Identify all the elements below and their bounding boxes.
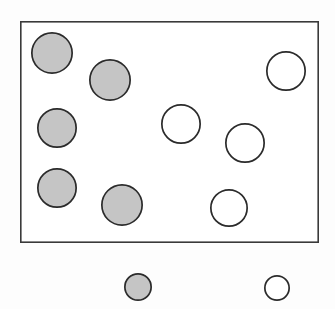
shaded-circle-1 [32, 33, 72, 73]
legend-shaded-circle [125, 274, 151, 300]
legend-unshaded-circle [265, 276, 289, 300]
legend-circles-group [125, 274, 289, 300]
circles-diagram [0, 0, 335, 309]
shaded-circle-4 [38, 169, 76, 207]
shaded-circle-2 [90, 60, 130, 100]
shaded-circle-5 [102, 185, 142, 225]
figure-canvas [0, 0, 335, 309]
shaded-circle-3 [38, 109, 76, 147]
unshaded-circle-2 [162, 105, 200, 143]
unshaded-circle-3 [226, 124, 264, 162]
unshaded-circle-4 [211, 190, 247, 226]
unshaded-circle-1 [267, 52, 305, 90]
